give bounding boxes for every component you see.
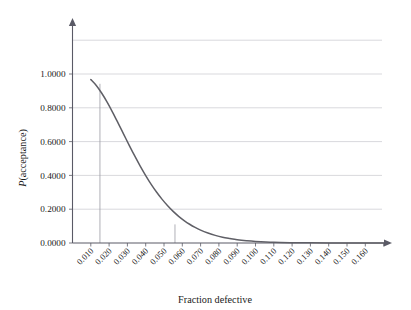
x-tick-label: 0.100 xyxy=(239,246,260,267)
x-tick-label: 0.030 xyxy=(111,246,132,267)
svg-text:P(acceptance): P(acceptance) xyxy=(17,129,29,188)
x-tick-label: 0.020 xyxy=(93,246,114,267)
y-axis-title-rest: (acceptance) xyxy=(17,129,29,180)
y-axis-title-symbol: P xyxy=(17,181,28,188)
x-tick-label: 0.070 xyxy=(184,246,205,267)
x-tick-label: 0.040 xyxy=(130,246,151,267)
x-tick-label: 0.120 xyxy=(276,246,297,267)
oc-curve-chart: 0.00000.20000.40000.60000.80001.0000 0.0… xyxy=(0,0,411,310)
x-axis-arrow-icon xyxy=(384,239,392,246)
x-tick-label: 0.110 xyxy=(258,246,279,267)
x-tick-label: 0.130 xyxy=(294,246,315,267)
x-tick-label: 0.050 xyxy=(148,246,169,267)
x-axis-title: Fraction defective xyxy=(178,294,252,305)
x-tick-labels-group: 0.0100.0200.0300.0400.0500.0600.0700.080… xyxy=(75,246,370,267)
y-tick-label: 0.0000 xyxy=(40,238,66,248)
chart-figure: 0.00000.20000.40000.60000.80001.0000 0.0… xyxy=(0,0,411,310)
y-tick-label: 0.8000 xyxy=(40,103,66,113)
y-tick-label: 0.6000 xyxy=(40,137,66,147)
x-tick-label: 0.010 xyxy=(75,246,96,267)
y-tick-label: 0.2000 xyxy=(40,204,66,214)
oc-curve-path xyxy=(91,80,384,243)
y-axis-title: P(acceptance) xyxy=(17,129,29,188)
axes-group xyxy=(69,18,392,247)
y-tick-labels-group: 0.00000.20000.40000.60000.80001.0000 xyxy=(40,69,66,248)
x-tick-label: 0.080 xyxy=(203,246,224,267)
y-tick-label: 0.4000 xyxy=(40,171,66,181)
x-tick-label: 0.060 xyxy=(166,246,187,267)
x-tick-label: 0.090 xyxy=(221,246,242,267)
y-axis-arrow-icon xyxy=(69,18,76,26)
x-tick-label: 0.150 xyxy=(331,246,352,267)
y-tick-label: 1.0000 xyxy=(40,69,66,79)
x-tick-label: 0.160 xyxy=(349,246,370,267)
x-tick-label: 0.140 xyxy=(313,246,334,267)
